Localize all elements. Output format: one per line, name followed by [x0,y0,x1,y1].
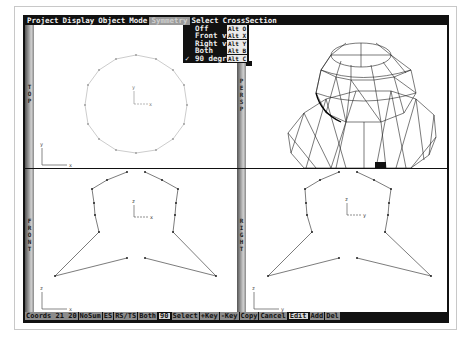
menu-mode[interactable]: Mode [127,17,149,25]
top-axis-v: y [40,141,43,148]
symmetry-item-90-degree[interactable]: ✓ 90 degree Alt C [183,55,249,62]
persp-view-label: PERSP [238,77,245,112]
status-plus-key[interactable]: +Key [200,312,219,320]
statusbar: Coords 21 20NoSumESRS/TSBoth90Select+Key… [25,312,447,321]
persp-viewport[interactable] [246,25,449,168]
top-view-strip: TOP [25,25,34,168]
status-es[interactable]: ES [103,312,113,320]
menubar: ProjectDisplayObjectModeSymmetrySelectCr… [25,17,447,25]
shortcut-alt-y: Alt Y [227,40,247,47]
status-del[interactable]: Del [325,312,340,320]
top-view-label: TOP [26,83,33,104]
front-view-label: FRONT [26,217,33,252]
right-axis-v: z [252,285,255,291]
menu-symmetry[interactable]: Symmetry [149,17,189,25]
front-viewport[interactable]: z x z x [34,169,237,314]
right-viewport[interactable]: z y z y [246,169,449,314]
front-center-v-axis: z [132,198,135,204]
menu-display[interactable]: Display [61,17,97,25]
status-both[interactable]: Both [138,312,157,320]
symmetry-dropdown: Off Alt O Front view Alt X Right view Al… [183,25,249,63]
status-copy[interactable]: Copy [240,312,259,320]
front-view-strip: FRONT [25,169,34,314]
status-minus-key[interactable]: -Key [220,312,239,320]
menu-project[interactable]: Project [25,17,61,25]
status-rs-ts[interactable]: RS/TS [114,312,137,320]
top-center-v-axis: y [132,84,135,91]
right-view-strip: RIGHT [237,169,246,314]
right-center-h-axis: y [363,212,366,219]
right-center-v-axis: z [345,196,348,202]
status-edit[interactable]: Edit [288,312,309,320]
persp-cursor-marker [375,162,386,168]
checkmark-icon: ✓ [185,55,190,62]
status-cancel[interactable]: Cancel [259,312,286,320]
menu-crosssection[interactable]: CrossSection [221,17,279,25]
front-axis-v: z [40,285,43,291]
top-axis-h: x [69,162,72,168]
symmetry-item-right-view[interactable]: Right view Alt Y [183,40,249,47]
shortcut-alt-c: Alt C [227,55,247,62]
top-center-h-axis: x [149,101,152,107]
status-nosum[interactable]: NoSum [79,312,102,320]
status-select[interactable]: Select [172,312,199,320]
status-add[interactable]: Add [310,312,325,320]
modeler-screen: ProjectDisplayObjectModeSymmetrySelectCr… [23,15,449,323]
status-90[interactable]: 90 [158,312,170,320]
menu-object[interactable]: Object [96,17,127,25]
front-center-h-axis: x [150,214,153,220]
coords-display: Coords 21 20 [25,312,78,320]
right-view-label: RIGHT [238,217,245,252]
